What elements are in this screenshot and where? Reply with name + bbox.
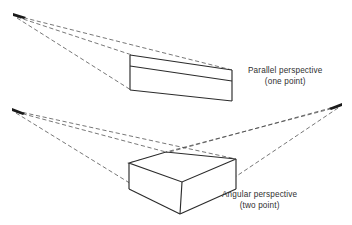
guide-line-to-top-back-right bbox=[17, 16, 232, 70]
parallel-caption-line-2: (one point) bbox=[248, 77, 322, 88]
parallel-perspective-caption: Parallel perspective (one point) bbox=[248, 66, 322, 87]
left-vanishing-point bbox=[12, 108, 25, 115]
angular-caption-line-2: (two point) bbox=[222, 201, 297, 212]
right-vanishing-point bbox=[329, 103, 342, 110]
guide-line-to-bottom-front-left bbox=[17, 18, 131, 90]
guide-line-left-to-left-top-corner bbox=[16, 112, 166, 152]
perspective-drawing-canvas bbox=[0, 0, 352, 225]
guide-line-right-to-right-top-corner bbox=[166, 107, 338, 152]
angular-perspective-caption: Angular perspective (two point) bbox=[222, 190, 297, 211]
parallel-perspective-diagram bbox=[13, 13, 232, 101]
angular-caption-line-1: Angular perspective bbox=[222, 190, 297, 201]
guide-line-left-to-far-top-corner bbox=[16, 111, 236, 159]
perspective-figure: Parallel perspective (one point) Angular… bbox=[0, 0, 352, 225]
guide-line-to-top-back-left bbox=[17, 17, 132, 55]
parallel-caption-line-1: Parallel perspective bbox=[248, 66, 322, 77]
